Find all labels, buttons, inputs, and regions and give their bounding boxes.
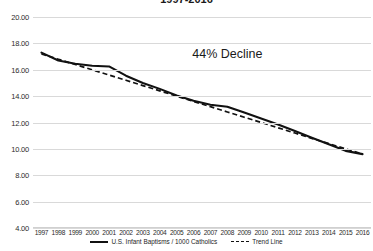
gridline <box>33 43 371 44</box>
x-axis-tick-label: 1998 <box>52 229 65 236</box>
legend-dashed-line-icon <box>231 241 249 242</box>
x-axis-tick-label: 2000 <box>85 229 98 236</box>
legend-item-baptisms: U.S. Infant Baptisms / 1000 Catholics <box>90 238 217 245</box>
x-axis-tick-label: 2016 <box>356 229 369 236</box>
x-axis-tick-label: 2002 <box>119 229 132 236</box>
x-axis-tick-label: 1999 <box>69 229 82 236</box>
y-axis-tick-label: 10.00 <box>11 144 29 153</box>
x-axis-tick-label: 2006 <box>187 229 200 236</box>
y-axis-tick-label: 4.00 <box>15 224 29 233</box>
y-axis-tick-label: 8.00 <box>15 171 29 180</box>
legend-label-trend: Trend Line <box>252 238 282 245</box>
baptisms-line-path <box>41 53 362 155</box>
gridline <box>33 202 371 203</box>
y-axis-tick-label: 16.00 <box>11 65 29 74</box>
x-axis-line <box>33 227 371 228</box>
y-axis-tick-label: 18.00 <box>11 39 29 48</box>
x-axis-tick-label: 2004 <box>153 229 166 236</box>
y-axis-tick-label: 14.00 <box>11 92 29 101</box>
x-axis-tick-label: 2012 <box>288 229 301 236</box>
chart-title: 1997-2016 <box>0 0 373 4</box>
y-axis-tick-label: 6.00 <box>15 197 29 206</box>
y-axis-tick-label: 12.00 <box>11 118 29 127</box>
y-axis-labels: 4.006.008.0010.0012.0014.0016.0018.0020.… <box>0 0 33 251</box>
legend-solid-line-icon <box>90 241 108 243</box>
decline-annotation: 44% Decline <box>192 47 262 61</box>
gridline <box>33 149 371 150</box>
gridline <box>33 175 371 176</box>
x-axis-tick-label: 2003 <box>136 229 149 236</box>
gridline <box>33 17 371 18</box>
chart-legend: U.S. Infant Baptisms / 1000 Catholics Tr… <box>0 238 373 245</box>
x-axis-tick-label: 2014 <box>322 229 335 236</box>
x-axis-tick-label: 2011 <box>272 229 285 236</box>
x-axis-tick-label: 2013 <box>305 229 318 236</box>
legend-label-baptisms: U.S. Infant Baptisms / 1000 Catholics <box>111 238 217 245</box>
y-axis-tick-label: 20.00 <box>11 13 29 22</box>
x-axis-tick-label: 1997 <box>35 229 48 236</box>
gridline <box>33 96 371 97</box>
x-axis-tick-label: 2001 <box>102 229 115 236</box>
x-axis-tick-label: 2007 <box>204 229 217 236</box>
line-chart: 1997-2016 4.006.008.0010.0012.0014.0016.… <box>0 0 373 251</box>
x-axis-tick-label: 2015 <box>339 229 352 236</box>
x-axis-tick-label: 2005 <box>170 229 183 236</box>
gridline <box>33 70 371 71</box>
gridline <box>33 123 371 124</box>
x-axis-tick-label: 2008 <box>221 229 234 236</box>
x-axis-tick-label: 2010 <box>254 229 267 236</box>
x-axis-tick-label: 2009 <box>238 229 251 236</box>
legend-item-trend: Trend Line <box>231 238 282 245</box>
